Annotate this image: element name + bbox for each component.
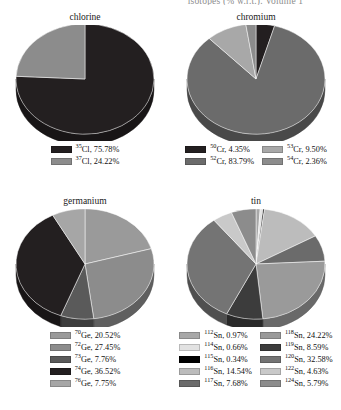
legend-column: 53Cr, 9.50%54Cr, 2.36%	[262, 144, 327, 167]
chart-panel-chromium: chromium 50Cr, 4.35%52Cr, 83.79% 53Cr, 9…	[171, 12, 341, 167]
legend-swatch	[179, 380, 200, 387]
legend-item: 50Cr, 4.35%	[185, 144, 254, 155]
legend-label: 118Sn, 24.22%	[285, 331, 333, 340]
legend-label: 54Cr, 2.36%	[287, 157, 327, 166]
legend-item: 37Cl, 24.22%	[51, 156, 120, 167]
legend-swatch	[179, 332, 200, 339]
legend-swatch	[179, 356, 200, 363]
legend-swatch	[50, 332, 71, 339]
legend-item: 74Ge, 36.52%	[50, 366, 121, 377]
legend-label: 73Ge, 7.76%	[75, 355, 116, 364]
legend-tin: 112Sn, 0.97%114Sn, 0.66%115Sn, 0.34%116S…	[171, 330, 341, 389]
legend-swatch	[50, 356, 71, 363]
legend-label: 124Sn, 5.79%	[285, 379, 329, 388]
chart-panel-chlorine: chlorine 35Cl, 75.78%37Cl, 24.22%	[0, 12, 170, 167]
legend-item: 54Cr, 2.36%	[262, 156, 327, 167]
legend-column: 112Sn, 0.97%114Sn, 0.66%115Sn, 0.34%116S…	[179, 330, 252, 389]
legend-label: 50Cr, 4.35%	[210, 145, 250, 154]
legend-swatch	[51, 158, 72, 165]
legend-label: 114Sn, 0.66%	[204, 343, 247, 352]
pie-slice	[16, 25, 85, 79]
chart-title-tin: tin	[171, 196, 341, 207]
legend-swatch	[51, 146, 72, 153]
pie-chlorine	[0, 25, 170, 141]
legend-label: 120Sn, 32.58%	[285, 355, 333, 364]
legend-item: 122Sn, 4.63%	[260, 366, 333, 377]
legend-item: 72Ge, 27.45%	[50, 342, 121, 353]
legend-swatch	[262, 146, 283, 153]
pie-germanium	[0, 209, 170, 327]
pie-chromium	[171, 25, 341, 141]
legend-item: 120Sn, 32.58%	[260, 354, 333, 365]
running-head: isotopes (% w.r.t.). Volume 1	[150, 0, 341, 5]
legend-label: 37Cl, 24.22%	[76, 157, 120, 166]
legend-label: 52Cr, 83.79%	[210, 157, 254, 166]
pie-tin	[171, 209, 341, 327]
legend-item: 116Sn, 14.54%	[179, 366, 252, 377]
pie-svg-germanium	[10, 209, 160, 327]
chart-panel-germanium: germanium 70Ge, 20.52%72Ge, 27.45%73Ge, …	[0, 196, 170, 389]
legend-item: 124Sn, 5.79%	[260, 378, 333, 389]
legend-item: 35Cl, 75.78%	[51, 144, 120, 155]
legend-swatch	[185, 158, 206, 165]
legend-chlorine: 35Cl, 75.78%37Cl, 24.22%	[0, 144, 170, 167]
legend-column: 50Cr, 4.35%52Cr, 83.79%	[185, 144, 254, 167]
legend-swatch	[260, 356, 281, 363]
legend-label: 35Cl, 75.78%	[76, 145, 120, 154]
legend-item: 53Cr, 9.50%	[262, 144, 327, 155]
chart-title-chlorine: chlorine	[0, 12, 170, 23]
legend-label: 115Sn, 0.34%	[204, 355, 247, 364]
legend-swatch	[185, 146, 206, 153]
legend-item: 118Sn, 24.22%	[260, 330, 333, 341]
legend-swatch	[50, 344, 71, 351]
legend-label: 119Sn, 8.59%	[285, 343, 328, 352]
chart-title-germanium: germanium	[0, 196, 170, 207]
pie-svg-chromium	[181, 25, 331, 141]
chart-title-chromium: chromium	[171, 12, 341, 23]
legend-swatch	[260, 344, 281, 351]
legend-chromium: 50Cr, 4.35%52Cr, 83.79% 53Cr, 9.50%54Cr,…	[171, 144, 341, 167]
legend-label: 70Ge, 20.52%	[75, 331, 121, 340]
legend-swatch	[179, 368, 200, 375]
legend-label: 122Sn, 4.63%	[285, 367, 329, 376]
pie-slice	[256, 261, 325, 319]
legend-germanium: 70Ge, 20.52%72Ge, 27.45%73Ge, 7.76%74Ge,…	[0, 330, 170, 389]
legend-swatch	[179, 344, 200, 351]
legend-swatch	[260, 332, 281, 339]
legend-item: 76Ge, 7.75%	[50, 378, 121, 389]
legend-column: 118Sn, 24.22%119Sn, 8.59%120Sn, 32.58%12…	[260, 330, 333, 389]
legend-swatch	[50, 380, 71, 387]
legend-swatch	[260, 380, 281, 387]
legend-column: 70Ge, 20.52%72Ge, 27.45%73Ge, 7.76%74Ge,…	[50, 330, 121, 389]
legend-item: 115Sn, 0.34%	[179, 354, 252, 365]
legend-label: 117Sn, 7.68%	[204, 379, 247, 388]
legend-label: 53Cr, 9.50%	[287, 145, 327, 154]
legend-item: 70Ge, 20.52%	[50, 330, 121, 341]
legend-label: 116Sn, 14.54%	[204, 367, 252, 376]
legend-item: 52Cr, 83.79%	[185, 156, 254, 167]
pie-svg-tin	[181, 209, 331, 327]
chart-panel-tin: tin 112Sn, 0.97%114Sn, 0.66%115Sn, 0.34%…	[171, 196, 341, 389]
legend-label: 72Ge, 27.45%	[75, 343, 121, 352]
legend-item: 119Sn, 8.59%	[260, 342, 333, 353]
legend-item: 112Sn, 0.97%	[179, 330, 252, 341]
legend-label: 76Ge, 7.75%	[75, 379, 116, 388]
legend-swatch	[262, 158, 283, 165]
legend-swatch	[50, 368, 71, 375]
pie-svg-chlorine	[10, 25, 160, 141]
legend-item: 73Ge, 7.76%	[50, 354, 121, 365]
legend-column: 35Cl, 75.78%37Cl, 24.22%	[51, 144, 120, 167]
legend-label: 112Sn, 0.97%	[204, 331, 247, 340]
figure-page: isotopes (% w.r.t.). Volume 1 chlorine 3…	[0, 0, 341, 410]
legend-swatch	[260, 368, 281, 375]
legend-item: 114Sn, 0.66%	[179, 342, 252, 353]
legend-item: 117Sn, 7.68%	[179, 378, 252, 389]
legend-label: 74Ge, 36.52%	[75, 367, 121, 376]
